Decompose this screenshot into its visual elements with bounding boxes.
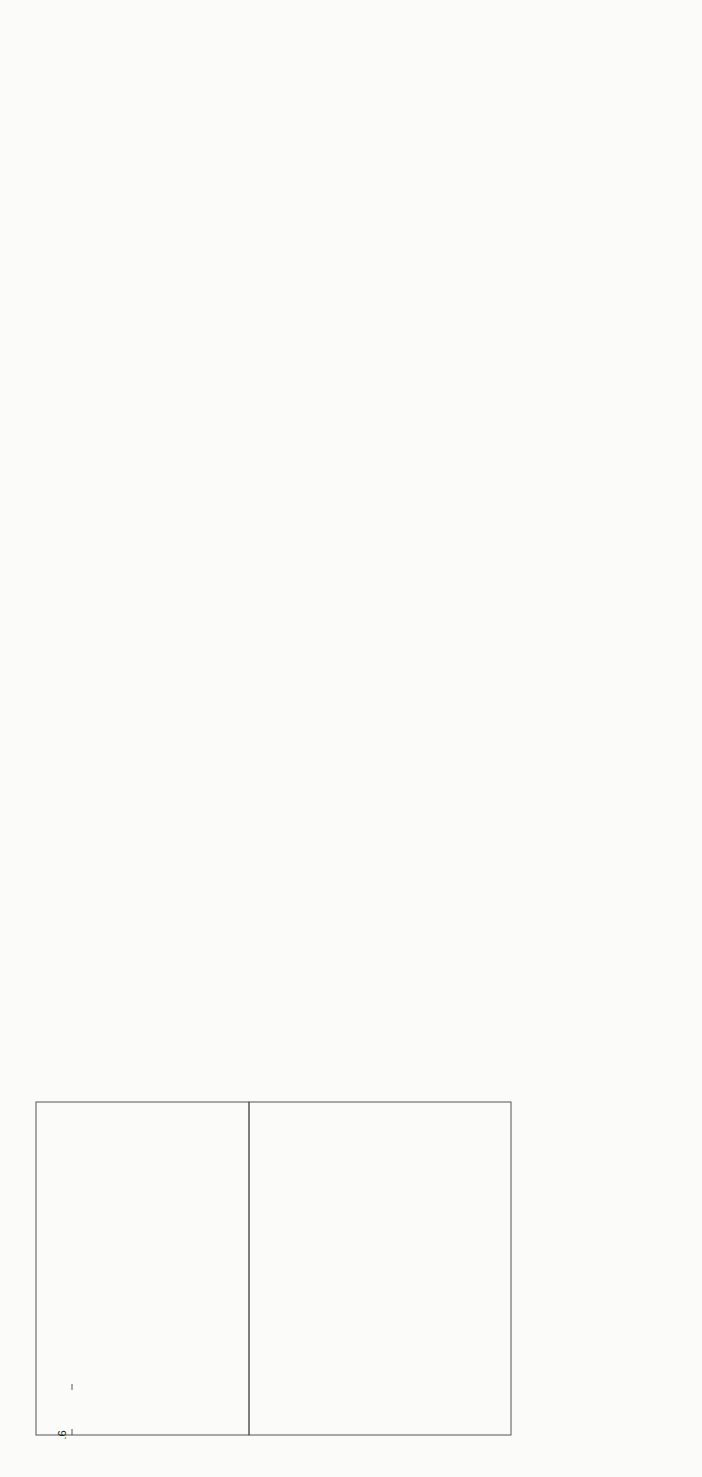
panel-frame-arguments (249, 1102, 511, 1435)
figure-canvas: .6 (0, 0, 702, 1477)
panel-frame-source (36, 1102, 249, 1435)
chart-goldman-1981: .6 (36, 1102, 511, 1440)
y-axis-source: .6 (56, 1384, 72, 1440)
figure-svg: .6 (0, 0, 702, 1477)
y-tick: .6 (56, 1430, 68, 1439)
